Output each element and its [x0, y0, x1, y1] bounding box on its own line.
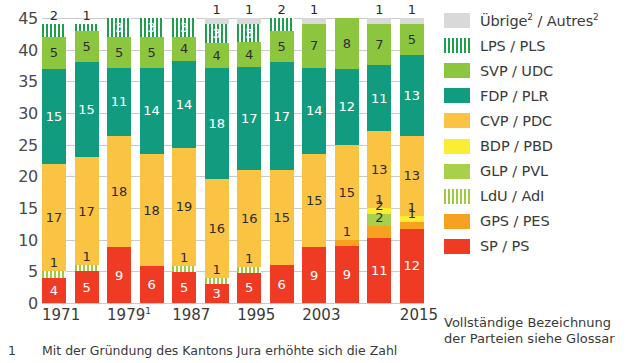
legend-note-line1: Vollständige Bezeichnung [444, 315, 643, 331]
bar-segment-value: 1 [400, 3, 424, 16]
legend-label-svp: SVP / UDC [480, 63, 553, 79]
bar-segment-fdp: 11 [367, 65, 391, 130]
bar-segment-value: 1 [42, 256, 66, 269]
y-axis: 454035302520151050 [0, 0, 40, 318]
bar-segment-value: 5 [82, 281, 90, 294]
bar-segment-sp: 6 [270, 265, 294, 303]
bar-1995[interactable]: 134171615 [237, 18, 261, 303]
legend-item-übrige[interactable]: Übrige2 / Autres2 [444, 8, 643, 33]
bar-1979[interactable]: 3511189 [107, 18, 131, 303]
bar-segment-value: 4 [213, 49, 221, 62]
legend-label-übrige: Übrige2 / Autres2 [480, 12, 599, 29]
bar-segment-value: 9 [343, 268, 351, 281]
bar-2003[interactable]: 1714159 [302, 18, 326, 303]
legend-item-bdp[interactable]: BDP / PBD [444, 133, 643, 158]
legend-item-svp[interactable]: SVP / UDC [444, 58, 643, 83]
bar-1975[interactable]: 15151715 [75, 18, 99, 303]
bar-segment-value: 2 [367, 211, 391, 224]
bar-1971[interactable]: 25151714 [42, 18, 66, 303]
bar-2011[interactable]: 17111312211 [367, 18, 391, 303]
chart-region: 454035302520151050 251517141515171535111… [0, 0, 432, 363]
x-tick-spacer [75, 306, 99, 324]
bar-2015[interactable]: 1513131112 [400, 18, 424, 303]
bar-2007[interactable]: 8121519 [335, 18, 359, 303]
bar-segment-value: 1 [237, 3, 261, 16]
bar-segment-value: 4 [245, 48, 253, 61]
legend-item-cvp[interactable]: CVP / PDC [444, 108, 643, 133]
bar-segment-sp: 5 [75, 271, 99, 303]
y-tick-45: 45 [18, 9, 38, 28]
y-tick-5: 5 [28, 262, 38, 281]
bar-segment-value: 14 [143, 104, 160, 117]
bar-segment-value: 9 [310, 269, 318, 282]
legend-item-gps[interactable]: GPS / PES [444, 209, 643, 234]
bar-1983[interactable]: 3514186 [140, 18, 164, 303]
x-tick-spacer [140, 306, 164, 324]
y-tick-25: 25 [18, 135, 38, 154]
legend-label-cvp: CVP / PDC [480, 113, 552, 129]
bar-segment-value: 15 [46, 110, 63, 123]
bar-segment-value: 13 [404, 89, 421, 102]
bar-segment-value: 15 [306, 194, 323, 207]
bar-segment-value: 14 [176, 98, 193, 111]
y-tick-20: 20 [18, 167, 38, 186]
bar-segment-sp: 12 [400, 229, 424, 303]
bar-segment-value: 12 [404, 259, 421, 272]
bar-segment-value: 15 [78, 103, 95, 116]
bar-segment-value: 1 [335, 225, 359, 238]
bar-segment-value: 1 [205, 263, 229, 276]
bar-segment-cvp: 15 [270, 170, 294, 265]
bar-segment-value: 1 [367, 3, 391, 16]
bar-segment-value: 19 [176, 200, 193, 213]
bar-segment-fdp: 11 [107, 68, 131, 136]
legend-item-ldu[interactable]: LdU / AdI [444, 184, 643, 209]
legend-item-sp[interactable]: SP / PS [444, 234, 643, 259]
legend-swatch-ldu [444, 189, 470, 204]
bar-segment-value: 5 [245, 281, 253, 294]
bar-segment-value: 18 [208, 117, 225, 130]
bar-segment-svp: 8 [335, 18, 359, 69]
bar-segment-value: 5 [82, 40, 90, 53]
bar-segment-svp: 5 [140, 37, 164, 68]
legend-item-glp[interactable]: GLP / PVL [444, 159, 643, 184]
bar-segment-fdp: 13 [400, 55, 424, 136]
legend-item-fdp[interactable]: FDP / PLR [444, 83, 643, 108]
footnote-number: 1 [8, 343, 42, 358]
footnote-text: Mit der Gründung des Kantons Jura erhöht… [42, 343, 428, 358]
bar-segment-value: 5 [50, 46, 58, 59]
bar-segment-sp: 9 [107, 247, 131, 303]
bar-segment-value: 16 [241, 212, 258, 225]
bar-segment-fdp: 14 [172, 61, 196, 148]
x-tick-spacer [270, 306, 294, 324]
bar-segment-lps: 3 [205, 24, 229, 43]
bar-segment-gps: 2 [367, 226, 391, 238]
legend-swatch-cvp [444, 113, 470, 128]
bar-segment-value: 5 [278, 40, 286, 53]
bar-segment-svp: 5 [400, 24, 424, 55]
bar-segment-lps: 2 [270, 18, 294, 31]
bar-segment-value: 11 [111, 95, 128, 108]
bar-segment-lps: 3 [140, 18, 164, 37]
legend-swatch-bdp [444, 139, 470, 154]
bar-segment-lps: 3 [107, 18, 131, 37]
legend-swatch-svp [444, 63, 470, 78]
bar-segment-fdp: 12 [335, 69, 359, 145]
bar-1987[interactable]: 34141915 [172, 18, 196, 303]
bar-segment-svp: 5 [270, 31, 294, 63]
bar-segment-sp: 6 [140, 266, 164, 303]
x-tick-label-2015: 2015 [400, 306, 424, 324]
bar-1999[interactable]: 2517156 [270, 18, 294, 303]
bar-segment-value: 18 [143, 204, 160, 217]
bar-segment-value: 15 [273, 211, 290, 224]
legend-label-bdp: BDP / PBD [480, 138, 553, 154]
bar-segment-lps: 3 [237, 24, 261, 42]
bar-segment-value: 8 [343, 37, 351, 50]
bar-1991[interactable]: 134181613 [205, 18, 229, 303]
legend-item-lps[interactable]: LPS / PLS [444, 33, 643, 58]
bar-segment-value: 4 [50, 284, 58, 297]
x-tick-label-2003: 2003 [302, 306, 326, 324]
bar-segment-fdp: 14 [302, 68, 326, 155]
bar-segment-value: 11 [371, 264, 388, 277]
bar-segment-cvp: 15 [302, 154, 326, 247]
bar-segment-fdp: 18 [205, 68, 229, 180]
